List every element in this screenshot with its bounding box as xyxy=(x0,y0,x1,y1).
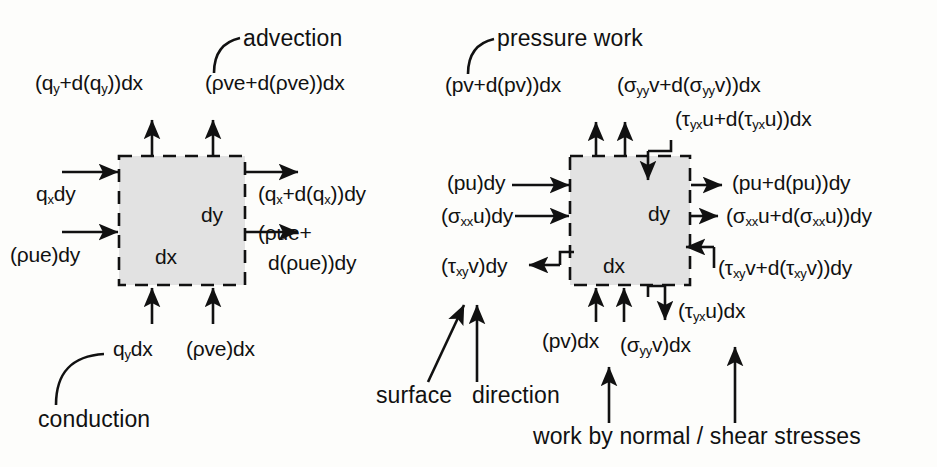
callout-surface: surface xyxy=(376,383,452,407)
label-q-y-in: qydx xyxy=(113,338,152,362)
callout-pressure-work: pressure work xyxy=(497,26,643,50)
right-cv-dx-label: dx xyxy=(603,255,625,277)
label-pv-out: (pv+d(pv))dx xyxy=(445,74,561,96)
label-rho-ue-out-line2: d(ρue))dy xyxy=(268,252,356,274)
label-q-x-out: (qx+d(qx))dy xyxy=(258,183,366,207)
label-pv-in: (pv)dx xyxy=(542,330,599,352)
callout-stresses: work by normal / shear stresses xyxy=(533,424,861,448)
label-sigma-xx-out: (σxxu+d(σxxu))dy xyxy=(726,205,872,229)
label-q-x-in: qxdy xyxy=(36,183,75,207)
label-tau-xy-out: (τxyv+d(τxyv))dy xyxy=(718,257,852,281)
label-rho-ve-out: (ρve+d(ρve))dx xyxy=(205,72,345,94)
label-tau-xy-in: (τxyv)dy xyxy=(441,255,507,279)
label-rho-ue-in: (ρue)dy xyxy=(10,244,80,266)
right-control-volume-fill xyxy=(570,156,690,285)
surface-pointer xyxy=(428,305,464,382)
label-pu-out: (pu+d(pu))dy xyxy=(732,172,850,194)
label-pu-in: (pu)dy xyxy=(447,172,505,194)
right-arrow-tauyx-out-elbow xyxy=(648,140,671,151)
left-cv-dy-label: dy xyxy=(201,204,223,226)
right-arrow-tauyx-in-elbow xyxy=(648,286,665,297)
label-tau-yx-in: (τyxu)dx xyxy=(678,300,745,324)
callout-advection: advection xyxy=(243,26,342,50)
advection-leader xyxy=(214,38,240,73)
label-rho-ve-in: (ρve)dx xyxy=(186,338,255,360)
label-sigma-yy-in: (σyyv)dx xyxy=(620,334,691,358)
pressure-work-leader xyxy=(468,39,494,74)
conduction-leader xyxy=(56,354,104,405)
left-cv-dx-label: dx xyxy=(155,246,177,268)
label-sigma-yy-out: (σyyv+d(σyyv))dx xyxy=(617,74,760,98)
figure-canvas: advection (qy+d(qy))dx (ρve+d(ρve))dx qx… xyxy=(0,0,937,467)
label-q-y-out: (qy+d(qy))dx xyxy=(35,72,143,96)
right-cv-dy-label: dy xyxy=(648,203,670,225)
callout-direction: direction xyxy=(472,383,560,407)
label-tau-yx-out: (τyxu+d(τyxu))dx xyxy=(675,108,812,132)
left-control-volume-fill xyxy=(119,156,245,285)
callout-conduction: conduction xyxy=(38,407,150,431)
label-rho-ue-out-line1: (ρue+ xyxy=(258,222,312,244)
label-sigma-xx-in: (σxxu)dy xyxy=(441,205,513,229)
